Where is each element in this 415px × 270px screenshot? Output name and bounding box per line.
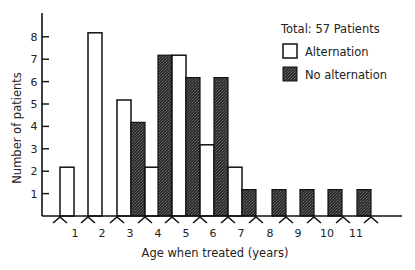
x-tick-label: 10 bbox=[320, 227, 334, 240]
x-tick-label: 11 bbox=[349, 227, 363, 240]
x-tick-label: 3 bbox=[127, 227, 134, 240]
bar-no-alternation-age-10 bbox=[328, 190, 342, 216]
x-tick-mark bbox=[221, 217, 235, 223]
y-tick-label: 7 bbox=[31, 53, 38, 66]
bar-alternation-age-5 bbox=[172, 55, 186, 216]
y-tick-label: 2 bbox=[31, 165, 38, 178]
legend-swatch-no-alternation bbox=[283, 67, 297, 81]
bars-group bbox=[60, 33, 371, 216]
x-tick-mark bbox=[364, 217, 378, 223]
x-tick-label: 6 bbox=[210, 227, 217, 240]
x-tick-label: 4 bbox=[155, 227, 162, 240]
x-axis-title: Age when treated (years) bbox=[142, 246, 289, 260]
x-tick-mark bbox=[81, 217, 95, 223]
bar-alternation-age-1 bbox=[60, 167, 74, 216]
x-tick-label: 7 bbox=[238, 227, 245, 240]
bar-alternation-age-2 bbox=[88, 33, 102, 216]
legend-swatch-alternation bbox=[283, 44, 297, 58]
x-tick-label: 5 bbox=[183, 227, 190, 240]
legend-label-no-alternation: No alternation bbox=[305, 68, 387, 82]
y-ticks: 12345678 bbox=[31, 31, 50, 201]
x-tick-label: 1 bbox=[72, 227, 79, 240]
bar-no-alternation-age-11 bbox=[357, 190, 371, 216]
x-tick-mark bbox=[165, 217, 179, 223]
x-tick-mark bbox=[307, 217, 321, 223]
x-tick-mark bbox=[138, 217, 152, 223]
x-tick-label: 9 bbox=[295, 227, 302, 240]
legend-total: Total: 57 Patients bbox=[280, 22, 380, 36]
y-tick-label: 3 bbox=[31, 143, 38, 156]
legend: Total: 57 Patients Alternation No altern… bbox=[280, 22, 387, 82]
y-tick-label: 4 bbox=[31, 120, 38, 133]
x-tick-mark bbox=[110, 217, 124, 223]
x-tick-mark bbox=[249, 217, 263, 223]
x-tick-mark bbox=[279, 217, 293, 223]
y-axis-title: Number of patients bbox=[10, 72, 24, 184]
legend-label-alternation: Alternation bbox=[305, 45, 369, 59]
bar-alternation-age-4 bbox=[145, 167, 159, 216]
x-tick-mark bbox=[193, 217, 207, 223]
bar-alternation-age-7 bbox=[228, 167, 242, 216]
bar-no-alternation-age-6 bbox=[214, 78, 228, 216]
y-tick-label: 8 bbox=[31, 31, 38, 44]
bar-no-alternation-age-7 bbox=[242, 190, 256, 216]
bar-no-alternation-age-5 bbox=[186, 78, 200, 216]
x-tick-label: 2 bbox=[99, 227, 106, 240]
bar-alternation-age-3 bbox=[117, 100, 131, 216]
bar-no-alternation-age-8 bbox=[272, 190, 286, 216]
x-tick-label: 8 bbox=[267, 227, 274, 240]
y-tick-label: 5 bbox=[31, 98, 38, 111]
bar-no-alternation-age-3 bbox=[131, 122, 145, 216]
x-tick-mark bbox=[53, 217, 67, 223]
y-tick-label: 6 bbox=[31, 76, 38, 89]
bar-chart: 12345678 1234567891011 Number of patient… bbox=[0, 0, 415, 270]
bar-alternation-age-6 bbox=[200, 145, 214, 216]
x-tick-mark bbox=[336, 217, 350, 223]
y-tick-label: 1 bbox=[31, 188, 38, 201]
bar-no-alternation-age-9 bbox=[300, 190, 314, 216]
x-ticks: 1234567891011 bbox=[53, 217, 378, 240]
bar-no-alternation-age-4 bbox=[158, 55, 172, 216]
